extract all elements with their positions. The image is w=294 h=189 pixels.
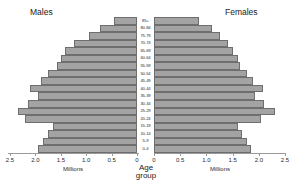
axis-tick-label: 0 xyxy=(152,157,155,163)
right-axis-line xyxy=(154,153,285,154)
male-bar xyxy=(30,85,137,93)
axis-tick xyxy=(180,153,181,156)
pyramid-row: 5-9 xyxy=(0,138,294,146)
female-bar xyxy=(154,85,263,93)
axis-tick-label: 0.5 xyxy=(107,157,115,163)
age-group-label: 10-14 xyxy=(137,130,154,138)
age-group-label: 40-44 xyxy=(137,85,154,93)
male-bar xyxy=(65,47,137,55)
plot-area: 85+80-8475-7970-7465-6960-6455-5950-5445… xyxy=(0,17,294,153)
pyramid-row: 35-39 xyxy=(0,92,294,100)
male-bar xyxy=(28,100,137,108)
axis-tick-label: 0.5 xyxy=(176,157,184,163)
age-group-label: 15-19 xyxy=(137,123,154,131)
axis-tick xyxy=(112,153,113,156)
axis-tick xyxy=(61,153,62,156)
male-bar xyxy=(57,62,137,70)
left-axis-title: Millions xyxy=(63,166,83,172)
pyramid-row: 40-44 xyxy=(0,85,294,93)
right-axis-title: Millions xyxy=(210,166,230,172)
male-bar xyxy=(43,138,137,146)
age-group-title-line2: group xyxy=(136,172,156,180)
pyramid-row: 0-4 xyxy=(0,145,294,153)
male-bar xyxy=(48,130,137,138)
axis-tick xyxy=(137,153,138,156)
pyramid-row: 25-29 xyxy=(0,108,294,116)
left-axis-line xyxy=(8,153,139,154)
female-bar xyxy=(154,115,261,123)
axis-tick-label: 2.0 xyxy=(255,157,263,163)
axis-tick-label: 2.5 xyxy=(281,157,289,163)
age-group-label: 5-9 xyxy=(137,138,154,146)
pyramid-row: 85+ xyxy=(0,17,294,25)
pyramid-row: 55-59 xyxy=(0,62,294,70)
male-bar xyxy=(114,17,137,25)
male-bar xyxy=(41,77,137,85)
females-title: Females xyxy=(225,7,258,17)
axis-tick-label: 2.0 xyxy=(31,157,39,163)
age-group-axis-title: Age group xyxy=(136,164,156,181)
age-group-label: 25-29 xyxy=(137,108,154,116)
axis-tick xyxy=(35,153,36,156)
female-bar xyxy=(154,138,247,146)
axis-tick xyxy=(233,153,234,156)
axis-tick xyxy=(154,153,155,156)
age-group-label: 20-24 xyxy=(137,115,154,123)
male-bar xyxy=(89,32,137,40)
age-group-label: 55-59 xyxy=(137,62,154,70)
male-bar xyxy=(38,92,137,100)
axis-tick xyxy=(10,153,11,156)
female-bar xyxy=(154,17,199,25)
female-bar xyxy=(154,40,228,48)
male-bar xyxy=(74,40,138,48)
age-group-label: 70-74 xyxy=(137,40,154,48)
female-bar xyxy=(154,100,264,108)
age-group-label: 35-39 xyxy=(137,92,154,100)
male-bar xyxy=(18,108,137,116)
male-bar xyxy=(25,115,137,123)
age-group-label: 60-64 xyxy=(137,55,154,63)
age-group-label: 30-34 xyxy=(137,100,154,108)
pyramid-row: 20-24 xyxy=(0,115,294,123)
female-bar xyxy=(154,123,238,131)
pyramid-row: 30-34 xyxy=(0,100,294,108)
pyramid-row: 60-64 xyxy=(0,55,294,63)
female-bar xyxy=(154,108,275,116)
male-bar xyxy=(53,123,137,131)
male-bar xyxy=(48,70,137,78)
pyramid-row: 45-49 xyxy=(0,77,294,85)
pyramid-row: 75-79 xyxy=(0,32,294,40)
age-group-label: 85+ xyxy=(137,17,154,25)
female-bar xyxy=(154,77,253,85)
age-group-label: 0-4 xyxy=(137,145,154,153)
female-bar xyxy=(154,55,238,63)
pyramid-row: 10-14 xyxy=(0,130,294,138)
female-bar xyxy=(154,145,251,153)
axis-tick-label: 1.5 xyxy=(228,157,236,163)
age-group-label: 80-84 xyxy=(137,25,154,33)
age-group-label: 50-54 xyxy=(137,70,154,78)
male-bar xyxy=(100,25,137,33)
age-group-label: 75-79 xyxy=(137,32,154,40)
pyramid-row: 15-19 xyxy=(0,123,294,131)
male-bar xyxy=(38,145,137,153)
female-bar xyxy=(154,25,212,33)
axis-tick xyxy=(259,153,260,156)
population-pyramid-chart: Males Females 85+80-8475-7970-7465-6960-… xyxy=(0,0,294,189)
female-bar xyxy=(154,92,255,100)
age-group-label: 45-49 xyxy=(137,77,154,85)
pyramid-row: 80-84 xyxy=(0,25,294,33)
pyramid-row: 50-54 xyxy=(0,70,294,78)
axis-tick xyxy=(86,153,87,156)
pyramid-row: 65-69 xyxy=(0,47,294,55)
female-bar xyxy=(154,70,247,78)
males-title: Males xyxy=(30,7,53,17)
age-group-label: 65-69 xyxy=(137,47,154,55)
axis-tick xyxy=(285,153,286,156)
axis-tick-label: 2.5 xyxy=(6,157,14,163)
female-bar xyxy=(154,47,233,55)
female-bar xyxy=(154,32,220,40)
axis-tick-label: 1.5 xyxy=(57,157,65,163)
axis-tick xyxy=(206,153,207,156)
pyramid-row: 70-74 xyxy=(0,40,294,48)
